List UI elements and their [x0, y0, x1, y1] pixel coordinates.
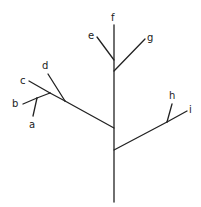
label-b: b: [12, 98, 18, 109]
branch-right-clade: [114, 122, 167, 150]
branch-a: [33, 98, 37, 116]
branch-e: [97, 37, 114, 60]
label-i: i: [189, 104, 192, 115]
branch-c: [29, 81, 50, 93]
label-g: g: [147, 32, 153, 43]
label-h: h: [169, 90, 175, 101]
label-c: c: [20, 75, 26, 86]
label-f: f: [111, 12, 115, 23]
branch-left-clade: [65, 101, 114, 128]
label-d: d: [42, 60, 48, 71]
branch-b: [23, 98, 37, 104]
branch-ab: [37, 93, 50, 98]
branch-g: [114, 39, 145, 71]
label-e: e: [88, 30, 94, 41]
label-a: a: [29, 119, 35, 130]
tree-diagram: f e g d c b a h i: [0, 0, 201, 207]
